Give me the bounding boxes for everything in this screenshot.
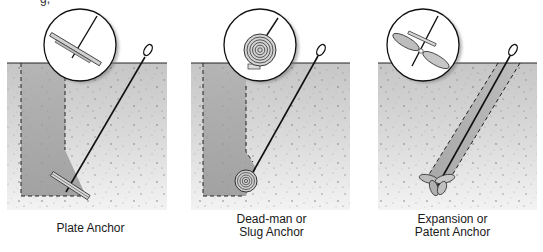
panel-plate-anchor: Plate Anchor xyxy=(0,0,181,252)
caption-line: Slug Anchor xyxy=(181,226,362,239)
rod-eye xyxy=(142,43,154,57)
caption-slug-anchor: Dead-man or Slug Anchor xyxy=(181,213,362,239)
caption-line: Patent Anchor xyxy=(362,226,543,239)
caption-expansion-anchor: Expansion or Patent Anchor xyxy=(362,213,543,239)
panel-slug-anchor: Dead-man or Slug Anchor xyxy=(181,0,362,252)
caption-plate-anchor: Plate Anchor xyxy=(0,222,181,235)
slug-anchor xyxy=(235,170,257,192)
caption-line: Plate Anchor xyxy=(0,222,181,235)
plate-anchor-illustration xyxy=(0,0,181,252)
panel-expansion-anchor: Expansion or Patent Anchor xyxy=(362,0,543,252)
rod-eye xyxy=(315,43,327,57)
rod-eye xyxy=(507,43,519,57)
